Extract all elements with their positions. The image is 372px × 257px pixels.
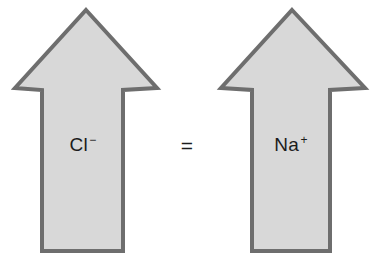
chloride-ion-label: Cl−: [69, 134, 96, 156]
diagram-canvas: Cl− = Na+: [0, 0, 372, 257]
left-up-arrow-shape: [15, 10, 157, 251]
sodium-element-text: Na: [274, 134, 299, 155]
right-up-arrow-shape: [221, 10, 365, 251]
chloride-charge-sign: −: [89, 133, 96, 147]
arrows-svg: [0, 0, 372, 257]
chloride-element-text: Cl: [69, 134, 87, 155]
sodium-ion-label: Na+: [274, 134, 307, 156]
equals-sign: =: [181, 134, 193, 158]
sodium-charge-sign: +: [300, 133, 307, 147]
